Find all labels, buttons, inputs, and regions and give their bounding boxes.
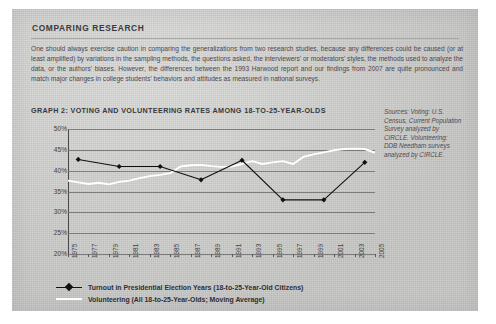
chart-title: GRAPH 2: VOTING AND VOLUNTEERING RATES A… xyxy=(31,106,326,115)
legend-item-volunteering: Volunteering (All 18-to-25-Year-Olds; Mo… xyxy=(56,293,303,305)
x-tick xyxy=(355,254,356,257)
x-tick xyxy=(293,254,294,257)
x-tick-label: 2005 xyxy=(378,244,385,258)
x-tick xyxy=(252,254,253,257)
data-point-marker xyxy=(76,157,81,162)
x-tick xyxy=(314,254,315,257)
y-tick-label: 35% xyxy=(41,188,67,195)
legend-swatch-volunteering-icon xyxy=(56,294,82,304)
x-tick xyxy=(88,254,89,257)
chart-legend: Turnout in Presidential Election Years (… xyxy=(56,281,303,305)
chart-plot-area: 20%25%30%35%40%45%50% 197519771979198119… xyxy=(68,129,375,254)
y-tick-label: 50% xyxy=(41,125,67,132)
heading-divider xyxy=(31,38,459,39)
y-tick-label: 30% xyxy=(41,208,67,215)
legend-label-turnout: Turnout in Presidential Election Years (… xyxy=(88,284,303,291)
x-tick xyxy=(375,254,376,257)
x-tick xyxy=(334,254,335,257)
x-tick xyxy=(109,254,110,257)
series-line xyxy=(68,149,375,185)
section-heading: COMPARING RESEARCH xyxy=(32,23,145,33)
x-tick xyxy=(170,254,171,257)
body-paragraph: One should always exercise caution in co… xyxy=(31,44,463,84)
x-tick xyxy=(129,254,130,257)
legend-label-volunteering: Volunteering (All 18-to-25-Year-Olds; Mo… xyxy=(88,296,265,303)
x-tick xyxy=(150,254,151,257)
x-tick xyxy=(232,254,233,257)
y-tick-label: 20% xyxy=(41,250,67,257)
data-point-marker xyxy=(117,164,122,169)
data-point-marker xyxy=(198,177,203,182)
y-tick-label: 45% xyxy=(41,146,67,153)
legend-swatch-turnout-icon xyxy=(56,282,82,292)
chart-sources-note: Sources: Voting: U.S. Census, Current Po… xyxy=(384,108,462,160)
x-tick xyxy=(68,254,69,257)
series-lines xyxy=(68,129,375,254)
data-point-marker xyxy=(158,164,163,169)
x-tick xyxy=(211,254,212,257)
x-tick xyxy=(191,254,192,257)
x-tick xyxy=(273,254,274,257)
y-tick-label: 25% xyxy=(41,229,67,236)
y-tick-label: 40% xyxy=(41,167,67,174)
series-line xyxy=(78,159,365,199)
scanned-page-panel: COMPARING RESEARCH One should always exe… xyxy=(12,9,478,311)
legend-item-turnout: Turnout in Presidential Election Years (… xyxy=(56,281,303,293)
